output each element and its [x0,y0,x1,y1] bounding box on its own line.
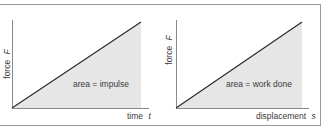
y-axis-label: force F [2,48,12,78]
area-label: area = impulse [73,79,129,89]
y-axis-label: force F [164,34,174,64]
y-axis-label-text: force [2,60,12,79]
figure: area = impulse time t force F area = wor… [0,0,331,134]
area-label: area = work done [226,79,292,89]
x-axis-label: time t [127,111,151,121]
x-axis-label: displacement s [256,111,316,121]
panel-work: area = work done displacement s force F [164,20,316,121]
x-axis-label-text: time [127,111,143,121]
panel-impulse: area = impulse time t force F [2,20,151,121]
y-axis-label-text: force [164,46,174,65]
y-axis-label-var: F [2,48,12,54]
y-axis-label-var: F [164,34,174,40]
x-axis-label-var: t [148,111,151,121]
x-axis-label-var: s [311,111,316,121]
x-axis-label-text: displacement [256,111,307,121]
